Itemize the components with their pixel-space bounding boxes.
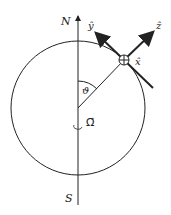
y-hat-label: ŷ	[88, 21, 94, 31]
theta-label: ϑ	[82, 86, 89, 96]
south-label: S	[65, 193, 73, 204]
earth-diagram	[0, 0, 171, 215]
z-hat-label: ẑ	[156, 21, 161, 31]
omega-label: Ω⃗	[86, 117, 94, 128]
x-hat-label: x̂	[135, 57, 141, 67]
x-axis-into-page-icon	[119, 55, 129, 65]
radius-line	[78, 60, 124, 108]
north-label: N	[61, 16, 71, 27]
y-axis-arrow	[97, 34, 124, 60]
